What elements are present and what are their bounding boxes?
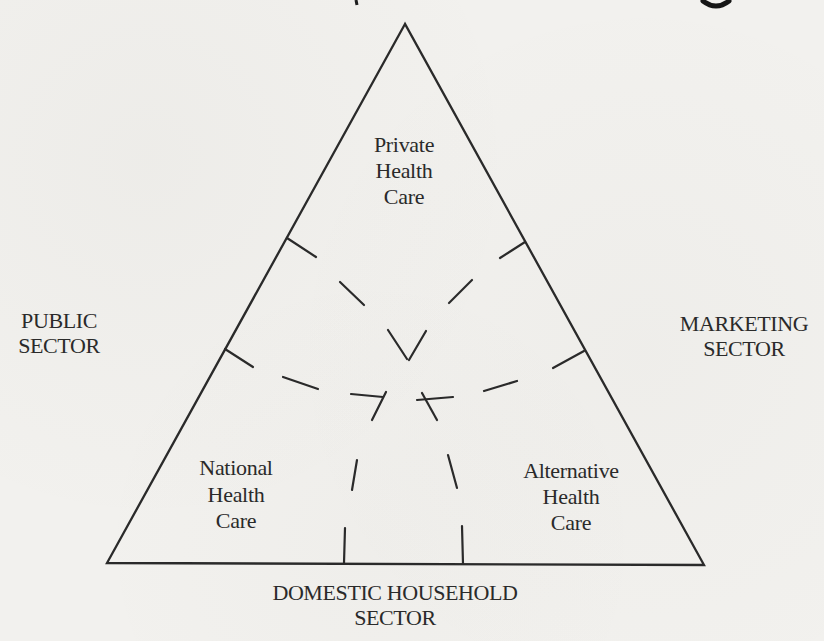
divider-dash — [409, 331, 426, 360]
label-alternative-line2: Health — [543, 484, 600, 509]
divider-dash — [448, 455, 457, 488]
label-private-line1: Private — [374, 132, 434, 157]
label-private-health-care: Private Health Care — [374, 132, 434, 209]
divider-dash — [351, 394, 383, 397]
divider-dash — [340, 282, 364, 305]
cropped-heading-fragment — [703, 1, 729, 6]
label-marketing-line2: SECTOR — [703, 336, 785, 361]
divider-dash — [553, 351, 584, 368]
label-national-line3: Care — [216, 508, 256, 533]
label-alternative-health-care: Alternative Health Care — [523, 458, 619, 535]
label-domestic-line2: SECTOR — [354, 605, 436, 630]
divider-dash — [352, 460, 357, 490]
label-domestic-line1: DOMESTIC HOUSEHOLD — [272, 580, 517, 605]
label-national-line1: National — [199, 455, 273, 480]
label-public-sector: PUBLIC SECTOR — [18, 308, 100, 358]
scanned-page: Private Health Care National Health Care… — [0, 0, 824, 641]
divider-dash — [484, 381, 517, 391]
divider-dash — [287, 238, 316, 257]
cropped-heading-fragment — [356, 0, 357, 5]
divider-dash — [422, 393, 437, 420]
label-national-health-care: National Health Care — [199, 455, 273, 533]
geometry-layer — [107, 0, 729, 565]
label-private-line2: Health — [376, 158, 433, 183]
divider-dash — [225, 349, 253, 367]
label-marketing-line1: MARKETING — [680, 311, 809, 336]
divider-dash — [500, 242, 525, 258]
divider-dash — [344, 528, 345, 563]
label-alternative-line3: Care — [551, 510, 591, 535]
divider-dash — [283, 377, 318, 389]
divider-dash — [449, 280, 472, 303]
label-public-line1: PUBLIC — [21, 308, 97, 333]
label-marketing-sector: MARKETING SECTOR — [680, 311, 809, 361]
divider-dash — [388, 330, 407, 359]
triangle-outline — [107, 24, 704, 565]
label-national-line2: Health — [208, 482, 265, 507]
label-public-line2: SECTOR — [18, 333, 100, 358]
label-alternative-line1: Alternative — [523, 458, 619, 483]
divider-dash — [462, 526, 463, 564]
label-private-line3: Care — [384, 184, 424, 209]
label-domestic-household-sector: DOMESTIC HOUSEHOLD SECTOR — [272, 580, 517, 630]
divider-dash — [417, 397, 453, 400]
triangle-diagram: Private Health Care National Health Care… — [0, 0, 824, 641]
